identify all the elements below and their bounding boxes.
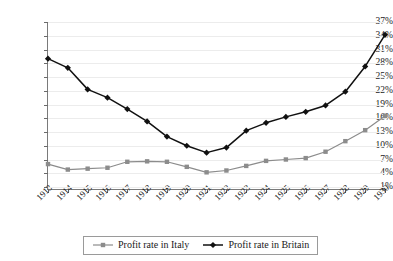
- legend-square-marker-icon: [92, 240, 114, 250]
- legend-entry: Profit rate in Italy: [92, 240, 189, 250]
- series-marker: [46, 162, 50, 166]
- legend: Profit rate in ItalyProfit rate in Brita…: [83, 236, 318, 255]
- series-marker: [85, 166, 89, 170]
- series-marker: [264, 159, 268, 163]
- legend-diamond-marker-icon: [202, 240, 224, 250]
- legend-label: Profit rate in Italy: [118, 240, 189, 250]
- legend-label: Profit rate in Britain: [228, 240, 309, 250]
- series-line: [48, 35, 385, 153]
- series-marker: [45, 56, 51, 62]
- series-marker: [244, 164, 248, 168]
- series-marker: [343, 139, 347, 143]
- series-marker: [184, 143, 190, 149]
- series-marker: [304, 156, 308, 160]
- series-marker: [145, 159, 149, 163]
- series-marker: [283, 114, 289, 120]
- series-marker: [185, 165, 189, 169]
- series-marker: [104, 95, 110, 101]
- series-marker: [303, 109, 309, 115]
- data-series: [46, 114, 387, 175]
- series-marker: [165, 160, 169, 164]
- series-marker: [125, 160, 129, 164]
- legend-entry: Profit rate in Britain: [202, 240, 309, 250]
- series-marker: [284, 157, 288, 161]
- series-marker: [224, 168, 228, 172]
- data-series-layer: [48, 22, 385, 187]
- gridline: [48, 187, 385, 188]
- series-marker: [363, 128, 367, 132]
- series-marker: [383, 114, 387, 118]
- series-marker: [66, 167, 70, 171]
- series-marker: [203, 150, 209, 156]
- series-marker: [263, 120, 269, 126]
- plot-area: [48, 22, 385, 187]
- profit-rate-line-chart: 1%4%7%10%13%16%19%22%25%28%31%34%37% 191…: [0, 0, 393, 261]
- series-marker: [323, 150, 327, 154]
- series-marker: [105, 166, 109, 170]
- series-line: [48, 116, 385, 172]
- series-marker: [204, 170, 208, 174]
- data-series: [45, 32, 388, 156]
